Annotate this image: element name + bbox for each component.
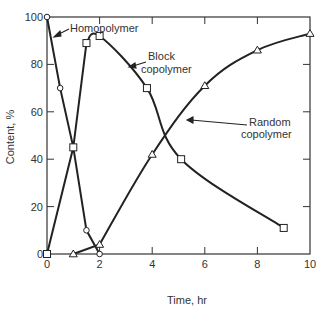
square-marker-icon — [178, 156, 185, 163]
circle-marker-icon — [57, 85, 63, 91]
arrow-random — [191, 120, 247, 125]
y-tick-label: 80 — [31, 58, 43, 70]
y-tick-label: 40 — [31, 153, 43, 165]
square-marker-icon — [280, 224, 287, 231]
x-tick-label: 2 — [97, 258, 103, 270]
x-axis-label: Time, hr — [167, 294, 207, 306]
x-tick-label: 10 — [304, 258, 316, 270]
annotation-homopolymer: Homopolymer — [70, 22, 139, 34]
annotation-block-line2: copolymer — [141, 63, 192, 75]
y-tick-label: 100 — [25, 11, 43, 23]
square-marker-icon — [44, 251, 51, 258]
circle-marker-icon — [97, 251, 103, 257]
x-tick-label: 4 — [149, 258, 155, 270]
y-tick-label: 20 — [31, 201, 43, 213]
square-marker-icon — [83, 40, 90, 47]
annotation-block-line1: Block — [148, 50, 175, 62]
x-tick-label: 6 — [202, 258, 208, 270]
square-marker-icon — [70, 144, 77, 151]
x-tick-label: 8 — [254, 258, 260, 270]
arrowhead-homopolymer — [54, 31, 61, 37]
arrowhead-random — [187, 117, 193, 123]
x-tick-label: 0 — [44, 258, 50, 270]
y-axis-label: Content, % — [4, 110, 16, 165]
circle-marker-icon — [84, 228, 90, 234]
circle-marker-icon — [44, 14, 50, 20]
triangle-marker-icon — [306, 30, 314, 37]
annotation-random-line2: copolymer — [241, 128, 292, 140]
square-marker-icon — [143, 85, 150, 92]
annotation-random-line1: Random — [249, 116, 291, 128]
line-chart: 0246810020406080100 Time, hr Content, % … — [0, 0, 330, 317]
chart-container: 0246810020406080100 Time, hr Content, % … — [0, 0, 330, 317]
y-tick-label: 0 — [37, 248, 43, 260]
y-tick-label: 60 — [31, 106, 43, 118]
